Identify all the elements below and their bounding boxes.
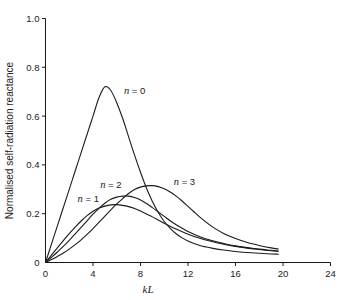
- y-tick-label: 0.2: [26, 208, 39, 219]
- curve-label-0: n = 0: [124, 85, 145, 96]
- x-tick-label: 0: [43, 268, 48, 279]
- x-tick-label: 12: [183, 268, 194, 279]
- y-tick-label: 0.6: [26, 111, 39, 122]
- y-axis-ticks: 00.20.40.60.81.0: [26, 13, 45, 268]
- y-tick-label: 0: [34, 257, 39, 268]
- x-tick-label: 20: [278, 268, 289, 279]
- curve-label-1: n = 1: [78, 193, 99, 204]
- x-axis-ticks: 04812162024: [43, 263, 336, 279]
- x-tick-label: 4: [90, 268, 95, 279]
- curve-label-3: n = 3: [174, 176, 195, 187]
- data-curves: [46, 86, 279, 262]
- x-tick-label: 8: [138, 268, 143, 279]
- figure-container: 04812162024 00.20.40.60.81.0 n = 0n = 1n…: [0, 0, 345, 300]
- line-chart: 04812162024 00.20.40.60.81.0 n = 0n = 1n…: [0, 0, 345, 300]
- axes-group: [46, 19, 331, 263]
- y-tick-label: 0.4: [26, 159, 39, 170]
- curve-n0: [46, 86, 279, 262]
- curve-n1: [46, 205, 279, 263]
- curve-label-2: n = 2: [100, 179, 121, 190]
- curve-annotations: n = 0n = 1n = 2n = 3: [78, 85, 196, 204]
- y-axis-title: Normalised self-radiation reactance: [4, 61, 15, 219]
- y-tick-label: 1.0: [26, 13, 39, 24]
- x-axis-title: kL: [143, 283, 154, 295]
- x-tick-label: 24: [325, 268, 336, 279]
- x-tick-label: 16: [230, 268, 241, 279]
- y-tick-label: 0.8: [26, 62, 39, 73]
